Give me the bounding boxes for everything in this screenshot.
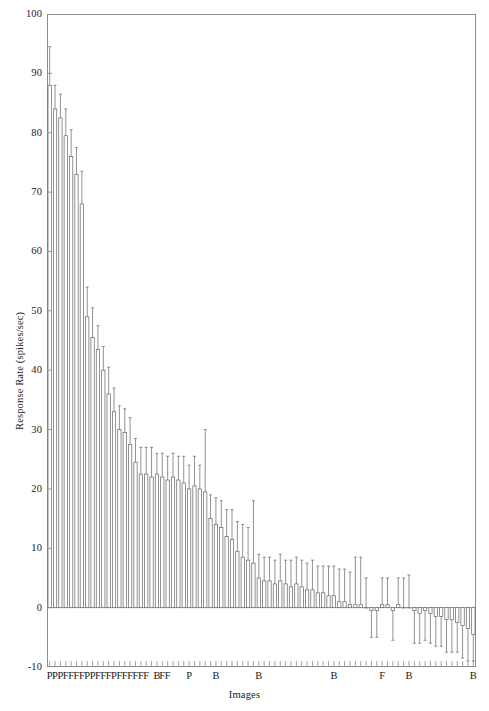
y-tick-label: 50 [31, 306, 42, 317]
y-tick-label: 80 [31, 127, 42, 138]
y-tick-label: 10 [31, 543, 42, 554]
x-tick-label: B [255, 671, 262, 682]
y-tick-label: 60 [31, 246, 42, 257]
bar-series [47, 14, 476, 667]
y-axis-tick-labels: -100102030405060708090100 [0, 0, 42, 711]
x-tick-label: F [165, 671, 171, 682]
x-axis-tick-labels: PPPFFFFPPFFFPFFFFFFBFFPBBBFBB [0, 671, 489, 687]
x-tick-label: B [470, 671, 477, 682]
y-tick-label: 70 [31, 187, 42, 198]
x-tick-label: B [212, 671, 219, 682]
y-tick-label: 20 [31, 484, 42, 495]
y-tick-label: 40 [31, 365, 42, 376]
x-tick-label: B [405, 671, 412, 682]
x-axis-title: Images [0, 689, 489, 700]
chart-figure: Response Rate (spikes/sec) -100102030405… [0, 0, 489, 711]
y-tick-label: 30 [31, 424, 42, 435]
x-tick-label: B [330, 671, 337, 682]
y-tick-label: 0 [37, 602, 42, 613]
x-tick-label: F [379, 671, 385, 682]
y-tick-label: 90 [31, 68, 42, 79]
y-tick-label: 100 [26, 9, 42, 20]
x-tick-label: P [186, 671, 192, 682]
x-tick-label: F [143, 671, 149, 682]
